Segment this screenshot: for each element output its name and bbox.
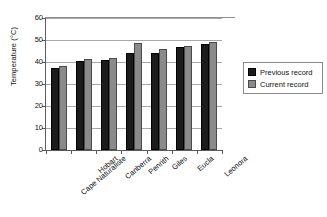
y-axis-tick-label: 20 <box>21 102 43 110</box>
x-axis-tick <box>71 150 72 154</box>
bar <box>201 44 209 150</box>
legend-item-current-record: Current record <box>248 78 319 90</box>
bar-chart: Temperature (°C) 6050403020100 Cape Natu… <box>0 0 327 217</box>
x-axis-tick <box>46 150 47 154</box>
legend-item-previous-record: Previous record <box>248 66 319 78</box>
bar <box>59 66 67 150</box>
bar <box>184 46 192 151</box>
bar-group <box>201 18 217 150</box>
y-axis-tick-label: 10 <box>21 124 43 132</box>
bar <box>109 58 117 150</box>
x-axis-tick <box>222 150 223 154</box>
bar <box>84 59 92 150</box>
bar <box>126 53 134 150</box>
bar-group <box>176 18 192 150</box>
chart-legend: Previous record Current record <box>243 62 323 94</box>
plot-area <box>45 18 222 151</box>
bar <box>159 49 167 150</box>
bar <box>51 68 59 151</box>
x-axis-tick <box>96 150 97 154</box>
bar <box>76 61 84 150</box>
x-axis-tick-label: Leonora <box>223 154 250 179</box>
y-axis-tick-label: 40 <box>21 58 43 66</box>
legend-label-previous-record: Previous record <box>260 68 313 77</box>
y-axis-tick-label: 30 <box>21 80 43 88</box>
x-axis-tick-label: Cape Naturaliste <box>79 154 128 197</box>
bar <box>101 60 109 150</box>
current-record-swatch <box>248 80 256 88</box>
x-axis-tick-label: Eucla <box>196 154 216 173</box>
x-axis-tick-label: Giles <box>170 154 189 172</box>
y-axis-title: Temperature (°C) <box>9 2 18 112</box>
bar-group <box>126 18 142 150</box>
bar <box>176 47 184 150</box>
x-axis-tick <box>197 150 198 154</box>
bar-group <box>51 18 67 150</box>
bar <box>134 43 142 150</box>
y-axis-tick-label: 50 <box>21 36 43 44</box>
bar <box>209 42 217 150</box>
bar-group <box>151 18 167 150</box>
y-axis-tick-label: 0 <box>21 146 43 154</box>
previous-record-swatch <box>248 68 256 76</box>
x-axis-tick <box>172 150 173 154</box>
bar-group <box>76 18 92 150</box>
legend-label-current-record: Current record <box>260 80 308 89</box>
bar <box>151 53 159 150</box>
y-axis-tick-label: 60 <box>21 14 43 22</box>
bar-group <box>101 18 117 150</box>
